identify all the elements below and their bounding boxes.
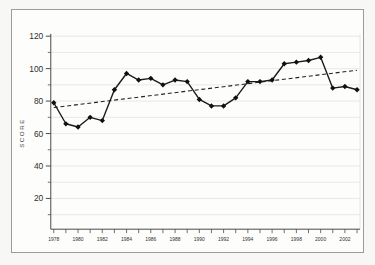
data-point-marker xyxy=(209,103,214,108)
score-series-line xyxy=(54,57,357,127)
x-tick-label: 1994 xyxy=(242,237,253,242)
data-point-marker xyxy=(294,59,299,64)
page: 2040608010012019781980198219841986198819… xyxy=(0,0,375,265)
x-tick-label: 1978 xyxy=(48,237,59,242)
y-tick-label: 80 xyxy=(34,96,44,106)
y-tick-label: 120 xyxy=(29,31,43,41)
x-tick-label: 1998 xyxy=(291,237,302,242)
x-tick-label: 1982 xyxy=(97,237,108,242)
data-point-marker xyxy=(318,55,323,60)
data-point-marker xyxy=(63,121,68,126)
data-point-marker xyxy=(330,85,335,90)
figure-frame: 2040608010012019781980198219841986198819… xyxy=(11,9,364,253)
data-point-marker xyxy=(136,77,141,82)
y-tick-label: 40 xyxy=(34,161,44,171)
data-point-marker xyxy=(354,87,359,92)
y-axis-title: SCORE xyxy=(18,118,25,148)
x-tick-label: 1980 xyxy=(73,237,84,242)
x-tick-label: 1986 xyxy=(145,237,156,242)
data-point-marker xyxy=(172,77,177,82)
data-point-marker xyxy=(148,76,153,81)
x-tick-label: 1988 xyxy=(170,237,181,242)
y-tick-label: 20 xyxy=(34,193,44,203)
x-tick-label: 1992 xyxy=(218,237,229,242)
data-point-marker xyxy=(100,118,105,123)
x-tick-label: 2002 xyxy=(339,237,350,242)
x-tick-label: 2000 xyxy=(315,237,326,242)
y-tick-label: 100 xyxy=(29,64,43,74)
y-tick-label: 60 xyxy=(34,129,44,139)
data-point-marker xyxy=(160,82,165,87)
x-tick-label: 1996 xyxy=(267,237,278,242)
x-tick-label: 1984 xyxy=(121,237,132,242)
data-point-marker xyxy=(257,79,262,84)
score-line-chart: 2040608010012019781980198219841986198819… xyxy=(12,10,363,252)
x-tick-label: 1990 xyxy=(194,237,205,242)
data-point-marker xyxy=(306,58,311,63)
